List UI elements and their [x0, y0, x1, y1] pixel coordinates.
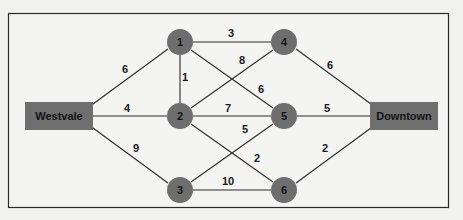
- node-3: 3: [167, 177, 193, 203]
- terminal-westvale-label: Westvale: [35, 110, 83, 122]
- weight-3-6: 10: [222, 175, 234, 187]
- terminal-downtown: Downtown: [370, 102, 438, 130]
- terminal-westvale: Westvale: [25, 102, 93, 130]
- network-diagram: 6 4 9 3 1 6 8 7 2 5 10 6 5 2 Westvale Do…: [0, 0, 463, 220]
- weight-3-5: 5: [242, 123, 248, 135]
- weight-westvale-1: 6: [122, 63, 128, 75]
- weight-westvale-3: 9: [133, 142, 139, 154]
- weight-westvale-2: 4: [124, 102, 131, 114]
- weight-2-4: 8: [239, 54, 245, 66]
- node-5-label: 5: [281, 110, 287, 122]
- terminal-downtown-label: Downtown: [376, 110, 432, 122]
- weight-5-downtown: 5: [324, 102, 330, 114]
- weight-4-downtown: 6: [327, 59, 333, 71]
- node-2: 2: [167, 103, 193, 129]
- weight-1-4: 3: [228, 27, 234, 39]
- node-1: 1: [167, 29, 193, 55]
- node-6-label: 6: [281, 184, 287, 196]
- node-5: 5: [271, 103, 297, 129]
- weight-1-2: 1: [182, 71, 188, 83]
- weight-1-5: 6: [258, 83, 264, 95]
- weight-2-6: 2: [254, 152, 260, 164]
- node-1-label: 1: [177, 36, 183, 48]
- node-3-label: 3: [177, 184, 183, 196]
- node-6: 6: [271, 177, 297, 203]
- node-2-label: 2: [177, 110, 183, 122]
- weight-6-downtown: 2: [322, 142, 328, 154]
- node-4-label: 4: [281, 36, 288, 48]
- node-4: 4: [271, 29, 297, 55]
- weight-2-5: 7: [225, 102, 231, 114]
